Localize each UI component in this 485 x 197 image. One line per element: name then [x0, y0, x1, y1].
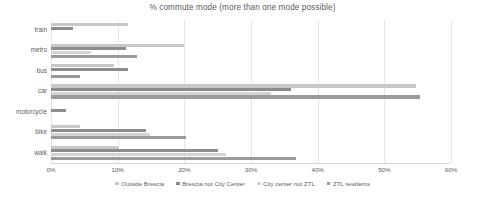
x-axis-tick-40pct: 40% [311, 166, 323, 173]
gridline-60pct [451, 20, 452, 163]
bar-motorcycle-series-2 [51, 109, 66, 112]
chart-container: % commute mode (more than one mode possi… [0, 0, 485, 197]
x-axis-tick-60pct: 60% [445, 166, 457, 173]
bar-bike-series-4 [51, 136, 186, 139]
y-axis-label-motorcycle: motorcycle [16, 109, 47, 115]
bar-group-car [51, 81, 451, 101]
legend-label-2: Brescia not City Center [182, 180, 245, 187]
legend-label-3: City center not ZTL [263, 180, 315, 187]
bar-train-series-2 [51, 27, 73, 30]
legend-swatch-icon-2 [176, 182, 180, 186]
bar-car-series-2 [51, 88, 291, 91]
bar-car-series-3 [51, 92, 271, 95]
legend-item-1[interactable]: Outside Brescia [115, 180, 164, 187]
legend-label-1: Outside Brescia [121, 180, 164, 187]
x-axis-tick-20pct: 20% [178, 166, 190, 173]
bar-group-bus [51, 61, 451, 81]
bar-group-train [51, 20, 451, 40]
legend-swatch-icon-1 [115, 182, 119, 186]
bar-walk-series-3 [51, 153, 226, 156]
chart-legend: Outside BresciaBrescia not City CenterCi… [0, 180, 485, 187]
plot-area [51, 20, 451, 163]
bar-bike-series-1 [51, 125, 80, 128]
y-axis-label-metro: metro [31, 47, 47, 53]
bar-bus-series-1 [51, 64, 114, 67]
bar-group-metro [51, 40, 451, 60]
bar-metro-series-2 [51, 47, 126, 50]
x-axis-line [51, 163, 451, 164]
y-axis-label-walk: walk [34, 150, 47, 156]
bar-metro-series-1 [51, 44, 184, 47]
bar-train-series-1 [51, 23, 128, 26]
bar-walk-series-2 [51, 149, 218, 152]
y-axis-labels: trainmetrobuscarmotorcyclebikewalk [0, 20, 47, 163]
legend-item-4[interactable]: ZTL residents [327, 180, 370, 187]
legend-item-2[interactable]: Brescia not City Center [176, 180, 245, 187]
y-axis-label-car: car [38, 88, 47, 94]
bar-bus-series-4 [51, 75, 80, 78]
bar-metro-series-4 [51, 55, 137, 58]
x-axis-tick-10pct: 10% [111, 166, 123, 173]
x-axis-tick-50pct: 50% [378, 166, 390, 173]
bar-bike-series-2 [51, 129, 146, 132]
y-axis-label-train: train [35, 27, 47, 33]
bar-car-series-1 [51, 84, 416, 87]
bar-bike-series-3 [51, 133, 150, 136]
chart-title: % commute mode (more than one mode possi… [0, 3, 485, 12]
legend-swatch-icon-4 [327, 182, 331, 186]
bar-group-motorcycle [51, 102, 451, 122]
x-axis-tick-30pct: 30% [245, 166, 257, 173]
bar-walk-series-1 [51, 146, 119, 149]
bar-walk-series-4 [51, 157, 296, 160]
legend-item-3[interactable]: City center not ZTL [257, 180, 315, 187]
bar-car-series-4 [51, 95, 420, 98]
bar-bus-series-2 [51, 68, 128, 71]
bar-group-bike [51, 122, 451, 142]
bar-metro-series-3 [51, 51, 91, 54]
legend-swatch-icon-3 [257, 182, 261, 186]
bar-group-walk [51, 143, 451, 163]
legend-label-4: ZTL residents [333, 180, 370, 187]
y-axis-label-bus: bus [37, 68, 47, 74]
y-axis-label-bike: bike [35, 129, 47, 135]
x-axis-labels: 0%10%20%30%40%50%60% [51, 166, 451, 176]
x-axis-tick-0pct: 0% [47, 166, 56, 173]
